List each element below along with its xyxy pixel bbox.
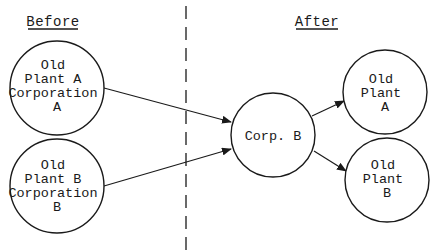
before-header-label: Before (26, 14, 79, 30)
node-label-line: B (53, 200, 61, 215)
node-label-line: Old (41, 58, 65, 73)
node-old-plant-a-corporation-a: Old Plant A Corporation A (8, 41, 105, 135)
node-label-line: Corporation (8, 186, 97, 201)
node-label-line: B (383, 186, 391, 201)
node-label-line: Plant A (25, 72, 83, 87)
after-header-label: After (295, 14, 340, 30)
node-old-plant-b: Old Plant B (345, 138, 429, 222)
edge-corp-b-to-old-plant-a (312, 101, 344, 116)
node-label-line: Corp. B (245, 129, 302, 144)
node-label-line: Plant B (25, 172, 82, 187)
after-header: After (295, 14, 340, 30)
node-label-line: Old (369, 72, 393, 87)
node-label-line: A (53, 100, 62, 115)
node-corp-b: Corp. B (231, 93, 315, 177)
node-label-line: Plant (363, 172, 404, 187)
edge-plant-b-corp-b-to-corp-b (104, 149, 231, 186)
node-label-line: Plant (361, 86, 402, 101)
node-label-line: Corporation (8, 86, 97, 101)
merger-diagram: Before After Old Plant A Corporation A (0, 0, 433, 251)
node-label-line: Old (371, 158, 395, 173)
edge-plant-a-corp-a-to-corp-b (104, 88, 231, 122)
node-label-line: Old (41, 158, 65, 173)
node-old-plant-b-corporation-b: Old Plant B Corporation B (8, 139, 105, 233)
node-label-line: A (381, 100, 390, 115)
node-old-plant-a: Old Plant A (343, 50, 427, 134)
edge-corp-b-to-old-plant-b (314, 151, 346, 171)
before-header: Before (26, 14, 79, 30)
